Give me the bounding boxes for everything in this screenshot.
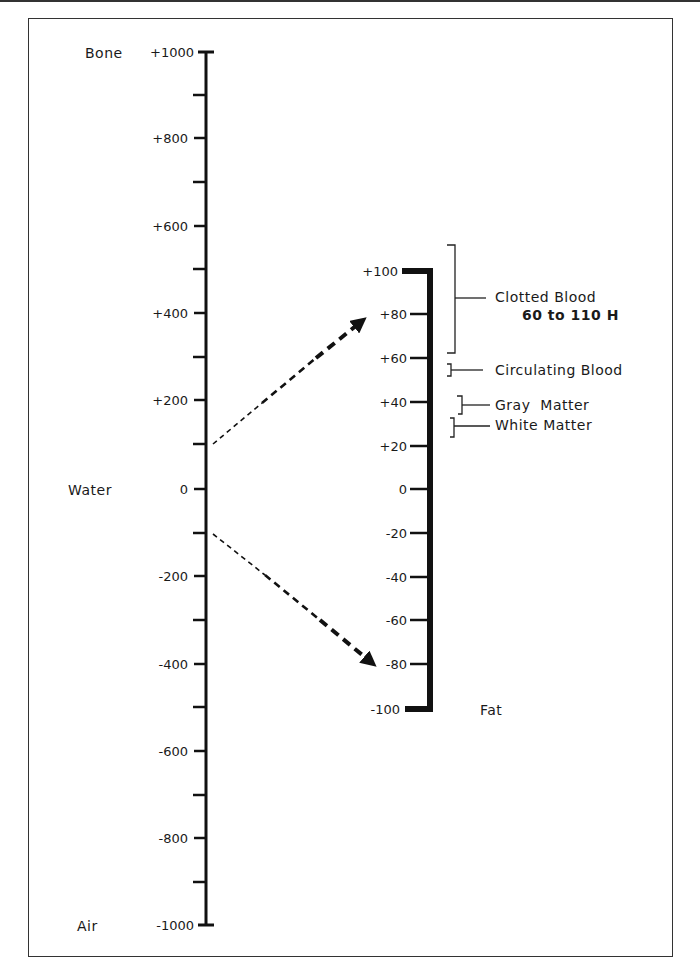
left-tick-label: -400 (158, 657, 188, 672)
left-tick-label: -800 (158, 831, 188, 846)
right-tick-label: -40 (386, 570, 407, 585)
left-tick-labels: +1000 +800 +600 +400 +200 0 -200 -400 -6… (150, 45, 194, 933)
circulating-blood-label: Circulating Blood (495, 362, 623, 378)
right-tick-label: +60 (380, 351, 407, 366)
ct-scale-diagram: +1000 +800 +600 +400 +200 0 -200 -400 -6… (0, 0, 700, 972)
right-tick-label: +100 (362, 264, 398, 279)
left-tick-label: -600 (158, 744, 188, 759)
left-axis (193, 51, 214, 926)
right-tick-label: -60 (386, 613, 407, 628)
fat-label: Fat (480, 702, 502, 718)
gray-matter-label: Gray Matter (495, 397, 589, 413)
left-tick-label: -200 (158, 569, 188, 584)
right-tick-label: -80 (386, 657, 407, 672)
left-tick-label: +800 (152, 131, 188, 146)
clotted-blood-label: Clotted Blood (495, 289, 596, 305)
water-label: Water (68, 482, 112, 498)
air-label: Air (77, 918, 98, 934)
white-matter-label: White Matter (495, 417, 592, 433)
left-tick-label: +400 (152, 306, 188, 321)
lower-arrow (213, 534, 372, 663)
right-tick-label: +80 (380, 307, 407, 322)
tissue-brackets (447, 245, 490, 437)
right-tick-label: +40 (380, 395, 407, 410)
right-tick-labels: +100 +80 +60 +40 +20 0 -20 -40 -60 -80 -… (362, 264, 407, 717)
clotted-blood-range: 60 to 110 H (522, 307, 619, 323)
left-tick-label: +200 (152, 393, 188, 408)
left-tick-label: -1000 (156, 918, 194, 933)
right-tick-label: -20 (386, 526, 407, 541)
right-tick-label: +20 (380, 439, 407, 454)
right-tick-label: 0 (399, 482, 407, 497)
upper-arrow (213, 321, 362, 444)
left-tick-label: 0 (180, 482, 188, 497)
left-tick-label: +600 (152, 219, 188, 234)
right-tick-label: -100 (370, 702, 400, 717)
bone-label: Bone (85, 45, 123, 61)
left-tick-label: +1000 (150, 45, 194, 60)
